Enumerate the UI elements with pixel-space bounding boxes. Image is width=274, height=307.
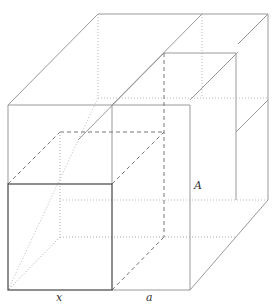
cube-hidden-edges [8, 53, 164, 290]
label-A: A [193, 179, 202, 192]
box-diagram: x a A [0, 0, 274, 307]
cube-dotted-edges [8, 132, 236, 290]
hidden-back-edges [8, 14, 268, 290]
label-x: x [56, 291, 63, 304]
outer-box-edges [8, 14, 268, 290]
label-a: a [146, 291, 153, 304]
